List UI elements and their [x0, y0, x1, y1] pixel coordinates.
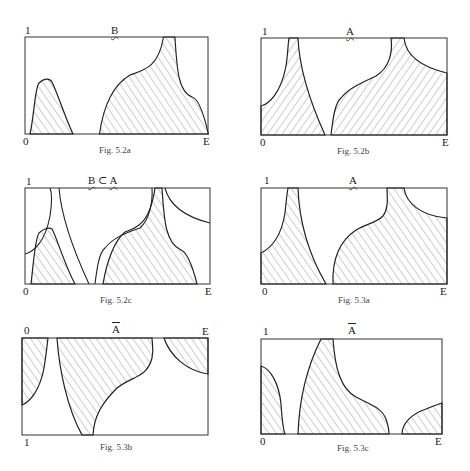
membership-plot-a [261, 188, 447, 284]
shaded-region [22, 338, 48, 405]
figure-caption: Fig. 5.3c [337, 444, 369, 453]
figure-caption: Fig. 5.3a [338, 296, 370, 305]
figure-5-3c: 1 0 E A Fig. 5.3c [261, 339, 442, 434]
figure-5-2a: 1 0 E B Fig. 5.2a [25, 37, 208, 134]
shaded-region [164, 338, 208, 374]
figure-caption: Fig. 5.2a [99, 146, 131, 155]
figure-5-2c: 1 0 E B ⊂ A Fig. 5.2c [25, 188, 210, 284]
complement-plot-inverted [22, 338, 208, 435]
shaded-region [331, 38, 447, 135]
shaded-region [298, 339, 389, 434]
x-end-label: E [205, 286, 212, 297]
set-label: A [112, 324, 120, 335]
shaded-region [261, 188, 326, 284]
figure-5-3b: 0 1 E A Fig. 5.3b [22, 338, 208, 435]
shaded-region [333, 188, 447, 284]
set-label-a: A [109, 174, 117, 186]
origin-label: 0 [260, 137, 266, 148]
x-end-label: E [442, 137, 449, 148]
y-top-label: 0 [24, 325, 30, 336]
complement-plot [261, 339, 442, 434]
set-a-boundary [165, 188, 210, 223]
x-end-label: E [435, 436, 442, 447]
figure-5-3a: 1 0 E A Fig. 5.3a [261, 188, 447, 284]
figure-caption: Fig. 5.3b [100, 443, 132, 452]
y-top-label: 1 [26, 176, 32, 187]
y-top-label: 1 [264, 175, 270, 186]
shaded-region [261, 38, 325, 135]
shaded-region [99, 37, 208, 134]
shaded-region [57, 338, 153, 435]
membership-plot-a [261, 38, 447, 135]
set-label: B ⊂ A [88, 175, 117, 186]
origin-label: 0 [260, 436, 266, 447]
origin-label: 0 [262, 286, 268, 297]
set-label: A [348, 325, 356, 336]
figure-caption: Fig. 5.2c [100, 296, 132, 305]
x-end-label: E [440, 286, 447, 297]
y-top-label: 1 [263, 326, 269, 337]
set-label: B [111, 25, 118, 36]
x-end-label: E [202, 326, 209, 337]
set-label: A [349, 175, 357, 186]
shaded-region [31, 228, 75, 284]
set-label: A [346, 26, 354, 37]
origin-label: 1 [24, 437, 30, 448]
figure-caption: Fig. 5.2b [337, 147, 369, 156]
subset-symbol: ⊂ [98, 174, 107, 186]
shaded-region [30, 79, 73, 134]
shaded-region [402, 403, 442, 434]
x-end-label: E [203, 136, 210, 147]
set-label-b: B [88, 174, 95, 186]
figure-5-2b: 1 0 E A Fig. 5.2b [261, 38, 447, 135]
y-top-label: 1 [262, 26, 268, 37]
membership-plot-b-subset-a [25, 188, 210, 284]
shaded-region [103, 188, 197, 284]
origin-label: 0 [23, 286, 29, 297]
shaded-region [261, 366, 285, 434]
y-top-label: 1 [25, 25, 31, 36]
origin-label: 0 [23, 136, 29, 147]
membership-plot-b [25, 37, 208, 134]
